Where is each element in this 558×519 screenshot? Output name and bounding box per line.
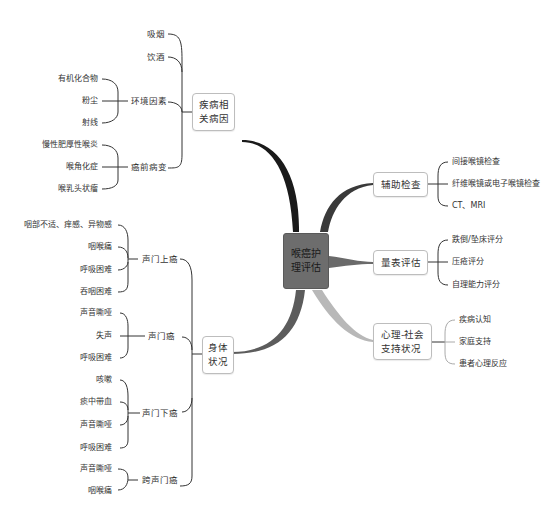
central-node[interactable]: 喉癌护理评估 (283, 233, 329, 289)
leaf-hoarseness[interactable]: 声音嘶哑 (80, 420, 112, 430)
node-physical-status[interactable]: 身体状况 (202, 336, 234, 374)
leaf-drinking[interactable]: 饮酒 (147, 52, 165, 62)
leaf-hoarseness[interactable]: 声音嘶哑 (80, 308, 112, 318)
node-psychosocial[interactable]: 心理-社会支持状况 (373, 323, 432, 360)
leaf-dyspnea[interactable]: 呼吸困难 (80, 443, 112, 453)
node-env-factors[interactable]: 环境因素 (131, 96, 167, 106)
leaf-smoking[interactable]: 吸烟 (147, 29, 165, 39)
leaf-keratosis[interactable]: 喉角化症 (66, 162, 98, 172)
leaf-aphonia[interactable]: 失声 (96, 331, 112, 341)
leaf-fall-score[interactable]: 跌倒/坠床评分 (452, 235, 503, 245)
scale-assessment-label: 量表评估 (381, 256, 421, 270)
leaf-dyspnea[interactable]: 呼吸困难 (80, 353, 112, 363)
leaf-sore-throat[interactable]: 咽喉痛 (88, 486, 112, 496)
node-precancer[interactable]: 癌前病变 (131, 162, 167, 172)
leaf-hoarseness[interactable]: 声音嘶哑 (80, 464, 112, 474)
leaf-self-care-score[interactable]: 自理能力评分 (452, 280, 500, 290)
leaf-sore-throat[interactable]: 咽喉痛 (88, 242, 112, 252)
central-label-line1: 喉癌护 (291, 248, 321, 259)
leaf-pressure-ulcer-score[interactable]: 压疮评分 (452, 257, 484, 267)
physical-status-label-line1: 身体 (208, 342, 228, 353)
node-auxiliary-exam[interactable]: 辅助检查 (373, 172, 428, 197)
physical-status-label-line2: 状况 (208, 356, 228, 367)
leaf-bloody-sputum[interactable]: 痰中带血 (80, 397, 112, 407)
leaf-organic-compounds[interactable]: 有机化合物 (58, 74, 98, 84)
leaf-dust[interactable]: 粉尘 (82, 96, 98, 106)
psychosocial-label-line1: 心理-社会 (381, 329, 424, 340)
leaf-indirect-laryngoscopy[interactable]: 间接喉镜检查 (452, 157, 500, 167)
node-transglottic[interactable]: 跨声门癌 (142, 475, 178, 485)
leaf-disease-awareness[interactable]: 疾病认知 (459, 315, 491, 325)
disease-causes-label-line2: 关病因 (199, 113, 229, 124)
leaf-dysphagia[interactable]: 吞咽困难 (80, 287, 112, 297)
central-label-line2: 理评估 (291, 262, 321, 273)
leaf-ct-mri[interactable]: CT、MRI (452, 201, 485, 211)
leaf-family-support[interactable]: 家庭支持 (459, 337, 491, 347)
leaf-papilloma[interactable]: 喉乳头状瘤 (58, 184, 98, 194)
disease-causes-label-line1: 疾病相 (199, 99, 229, 110)
node-glottic[interactable]: 声门癌 (148, 331, 175, 341)
psychosocial-label-line2: 支持状况 (381, 343, 421, 354)
node-supraglottic[interactable]: 声门上癌 (142, 254, 178, 264)
leaf-fiber-laryngoscopy[interactable]: 纤维喉镜或电子喉镜检查 (452, 179, 540, 189)
auxiliary-exam-label: 辅助检查 (381, 178, 421, 192)
node-scale-assessment[interactable]: 量表评估 (373, 250, 428, 275)
leaf-cough[interactable]: 咳嗽 (96, 375, 112, 385)
leaf-dyspnea[interactable]: 呼吸困难 (80, 265, 112, 275)
node-subglottic[interactable]: 声门下癌 (142, 408, 178, 418)
leaf-chronic-laryngitis[interactable]: 慢性肥厚性喉炎 (42, 140, 98, 150)
leaf-psych-reaction[interactable]: 患者心理反应 (459, 359, 507, 369)
mind-map: 喉癌护理评估 疾病相关病因 吸烟 饮酒 环境因素 癌前病变 有机化合物 粉尘 射… (0, 0, 558, 519)
leaf-throat-discomfort[interactable]: 咽部不适、痒感、异物感 (24, 220, 112, 230)
leaf-radiation[interactable]: 射线 (82, 118, 98, 128)
node-disease-causes[interactable]: 疾病相关病因 (192, 93, 235, 131)
